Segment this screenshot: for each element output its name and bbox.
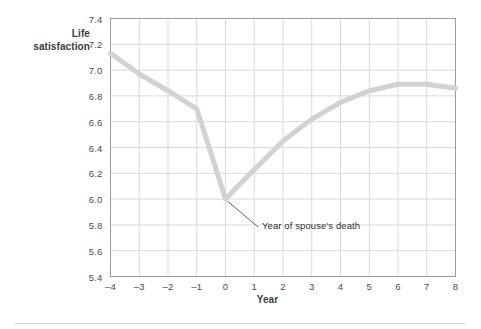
- annotation-leader-line: [228, 201, 259, 227]
- annotation-label: Year of spouse's death: [262, 220, 360, 231]
- footer-divider: [14, 323, 466, 324]
- chart-figure: Life satisfaction Year 5.45.65.86.06.26.…: [0, 0, 481, 329]
- plot-area: [0, 0, 481, 329]
